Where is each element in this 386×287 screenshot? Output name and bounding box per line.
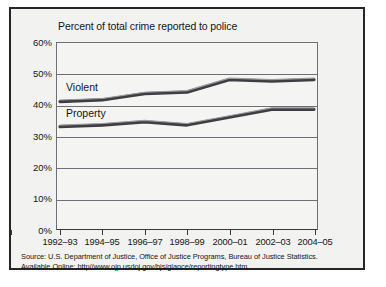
- xtick-0: [60, 230, 61, 235]
- gridline-30: [57, 137, 317, 138]
- plot-area: [56, 42, 318, 230]
- series-label-property: Property: [64, 107, 108, 119]
- xtick-4: [230, 230, 231, 235]
- xtick-2: [145, 230, 146, 235]
- chart-title: Percent of total crime reported to polic…: [58, 20, 237, 32]
- ytick-label-20: 20%: [18, 162, 52, 173]
- source-note: Source: U.S. Department of Justice, Offi…: [21, 252, 356, 271]
- xtick-label-5: 2002–03: [256, 237, 291, 247]
- xtick-1: [102, 230, 103, 235]
- xtick-5: [273, 230, 274, 235]
- xtick-label-4: 2000–01: [213, 237, 248, 247]
- gridline-10: [57, 200, 317, 201]
- ytick-label-50: 50%: [18, 68, 52, 79]
- source-line-1: Source: U.S. Department of Justice, Offi…: [21, 252, 356, 262]
- ytick-label-40: 40%: [18, 99, 52, 110]
- xtick-3: [11, 230, 12, 235]
- gridline-20: [57, 168, 317, 169]
- series-label-violent: Violent: [64, 81, 100, 93]
- ytick-label-60: 60%: [18, 37, 52, 48]
- xtick-label-2: 1996–97: [128, 237, 163, 247]
- ytick-label-10: 10%: [18, 193, 52, 204]
- ytick-label-0: 0%: [18, 225, 52, 236]
- source-line-2: Available Online: http//www.ojp.usdoj.go…: [21, 262, 356, 272]
- chart-figure: Percent of total crime reported to polic…: [9, 7, 365, 270]
- xtick-label-0: 1992–93: [43, 237, 78, 247]
- xtick-6: [315, 230, 316, 235]
- xtick-label-1: 1994–95: [85, 237, 120, 247]
- gridline-50: [57, 74, 317, 75]
- xtick-label-6: 2004–05: [298, 237, 333, 247]
- xtick-3b: [187, 230, 188, 235]
- xtick-label-3: 1998–99: [170, 237, 205, 247]
- ytick-label-30: 30%: [18, 131, 52, 142]
